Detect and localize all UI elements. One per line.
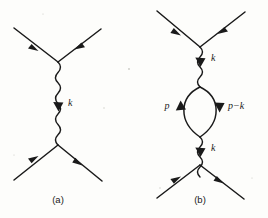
panel-a-upper-right-fermion-line bbox=[58, 29, 101, 62]
panel-a-lower-right-fermion-line bbox=[58, 145, 102, 181]
panel-b-upper-momentum-label-k: k bbox=[211, 52, 216, 63]
panel-b-lower-photon-propagator: k bbox=[195, 137, 216, 177]
panel-b-caption: (b) bbox=[194, 194, 206, 205]
panel-b-loop-right-fermion-arc: p−k bbox=[200, 87, 245, 137]
panel-a-upper-left-fermion-line bbox=[14, 28, 58, 62]
panel-b-upper-left-fermion-line bbox=[157, 11, 200, 47]
panel-a-caption: (a) bbox=[52, 194, 64, 205]
panel-b-lower-momentum-label-k: k bbox=[211, 142, 216, 153]
panel-b-upper-right-fermion-line bbox=[200, 12, 245, 47]
panel-b: k p p−k k bbox=[157, 11, 245, 205]
panel-a: k (a) bbox=[14, 28, 102, 205]
feynman-figure: k (a) bbox=[0, 0, 268, 218]
paper-speckle-group bbox=[13, 13, 252, 188]
panel-b-upper-photon-propagator: k bbox=[195, 47, 216, 87]
panel-a-momentum-label-k: k bbox=[68, 97, 73, 108]
panel-b-loop-momentum-label-p: p bbox=[164, 100, 170, 111]
panel-b-lower-right-fermion-line bbox=[200, 165, 244, 199]
panel-b-loop-momentum-label-p-minus-k: p−k bbox=[227, 100, 245, 111]
panel-a-lower-left-fermion-line bbox=[14, 145, 58, 180]
panel-b-loop-left-fermion-arc: p bbox=[164, 87, 201, 137]
panel-a-photon-propagator: k bbox=[53, 62, 73, 145]
feynman-diagram-canvas: k (a) bbox=[0, 0, 268, 218]
